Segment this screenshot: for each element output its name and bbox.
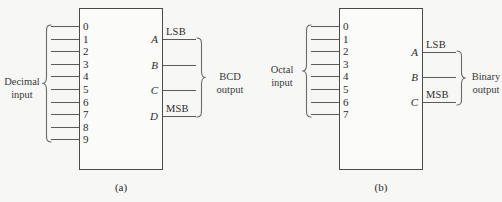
input-wire bbox=[311, 26, 339, 27]
input-wire bbox=[51, 127, 79, 128]
input-wire bbox=[51, 114, 79, 115]
output-brace bbox=[456, 50, 466, 106]
input-pin-label: 2 bbox=[343, 46, 349, 57]
output-wire bbox=[423, 102, 456, 103]
output-wire bbox=[423, 77, 456, 78]
input-wire bbox=[51, 51, 79, 52]
output-brace bbox=[196, 37, 206, 118]
output-wire bbox=[163, 90, 196, 91]
output-group-caption: Binary output bbox=[466, 71, 502, 96]
output-pin-label: A bbox=[403, 47, 418, 58]
output-pin-label: B bbox=[143, 60, 158, 71]
output-wire bbox=[163, 39, 196, 40]
input-wire bbox=[311, 64, 339, 65]
output-wire bbox=[163, 65, 196, 66]
msb-tag: MSB bbox=[426, 90, 449, 101]
input-pin-label: 3 bbox=[343, 59, 349, 70]
input-pin-label: 5 bbox=[343, 84, 349, 95]
output-group-caption: BCD output bbox=[208, 71, 252, 96]
input-group-caption-line2: input bbox=[271, 77, 293, 88]
input-group-caption: Octal input bbox=[262, 64, 302, 89]
input-wire bbox=[51, 64, 79, 65]
input-pin-label: 2 bbox=[83, 46, 89, 57]
input-wire bbox=[311, 102, 339, 103]
output-pin-label: C bbox=[403, 97, 418, 108]
encoder-block-b bbox=[339, 8, 423, 170]
input-pin-label: 5 bbox=[83, 84, 89, 95]
input-wire bbox=[51, 76, 79, 77]
output-pin-label: A bbox=[143, 34, 158, 45]
panel-caption-b: (b) bbox=[351, 182, 411, 193]
input-pin-label: 0 bbox=[83, 21, 89, 32]
input-group-caption-line2: input bbox=[11, 89, 33, 100]
input-pin-label: 4 bbox=[83, 71, 89, 82]
output-group-caption-line1: BCD bbox=[219, 71, 241, 82]
output-pin-label: D bbox=[143, 111, 158, 122]
input-wire bbox=[51, 39, 79, 40]
figure-canvas: 0 1 2 3 4 5 6 7 8 9 Decimal input A B C … bbox=[0, 0, 502, 202]
input-pin-label: 1 bbox=[343, 34, 349, 45]
output-group-caption-line1: Binary bbox=[472, 71, 501, 82]
output-wire bbox=[423, 52, 456, 53]
output-group-caption-line2: output bbox=[473, 84, 500, 95]
output-pin-label: B bbox=[403, 72, 418, 83]
input-brace bbox=[302, 24, 312, 118]
lsb-tag: LSB bbox=[426, 40, 446, 51]
output-pin-label: C bbox=[143, 85, 158, 96]
output-wire bbox=[163, 116, 196, 117]
input-pin-label: 1 bbox=[83, 34, 89, 45]
input-wire bbox=[51, 139, 79, 140]
input-wire bbox=[311, 51, 339, 52]
input-group-caption: Decimal input bbox=[0, 76, 44, 101]
input-group-caption-line1: Decimal bbox=[4, 76, 40, 87]
input-wire bbox=[311, 114, 339, 115]
input-wire bbox=[51, 89, 79, 90]
msb-tag: MSB bbox=[166, 104, 189, 115]
input-pin-label: 9 bbox=[83, 134, 89, 145]
input-pin-label: 6 bbox=[343, 97, 349, 108]
input-pin-label: 7 bbox=[83, 109, 89, 120]
input-wire bbox=[311, 76, 339, 77]
input-pin-label: 4 bbox=[343, 71, 349, 82]
input-group-caption-line1: Octal bbox=[271, 64, 294, 75]
input-wire bbox=[311, 39, 339, 40]
input-pin-label: 0 bbox=[343, 21, 349, 32]
lsb-tag: LSB bbox=[166, 27, 186, 38]
input-pin-label: 8 bbox=[83, 122, 89, 133]
input-pin-label: 7 bbox=[343, 109, 349, 120]
input-pin-label: 3 bbox=[83, 59, 89, 70]
output-group-caption-line2: output bbox=[217, 84, 244, 95]
input-wire bbox=[311, 89, 339, 90]
input-pin-label: 6 bbox=[83, 97, 89, 108]
input-wire bbox=[51, 102, 79, 103]
input-wire bbox=[51, 26, 79, 27]
panel-caption-a: (a) bbox=[91, 182, 151, 193]
